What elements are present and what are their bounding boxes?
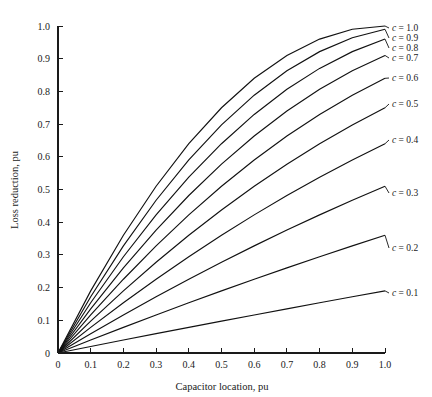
label-leader-line bbox=[385, 26, 389, 28]
y-tick-label: 0.6 bbox=[38, 151, 51, 162]
data-curve bbox=[58, 78, 385, 353]
y-tick-label: 0.5 bbox=[38, 184, 51, 195]
x-tick-label: 1.0 bbox=[379, 359, 392, 370]
curve-label: c = 0.3 bbox=[392, 188, 418, 198]
curve-labels-layer: c = 1.0c = 0.9c = 0.8c = 0.7c = 0.6c = 0… bbox=[392, 23, 418, 298]
axes-layer bbox=[58, 26, 385, 353]
label-leader-line bbox=[385, 29, 389, 38]
curve-label: c = 0.5 bbox=[392, 99, 418, 109]
y-tick-label: 0.3 bbox=[38, 249, 51, 260]
x-tick-label: 0.2 bbox=[117, 359, 130, 370]
y-tick-label: 0 bbox=[45, 348, 50, 359]
x-tick-label: 0.7 bbox=[281, 359, 294, 370]
y-tick-label: 0.8 bbox=[38, 86, 51, 97]
data-curve bbox=[58, 235, 385, 353]
curve-label: c = 0.2 bbox=[392, 243, 418, 253]
curves-layer bbox=[58, 26, 385, 353]
loss-reduction-chart: 00.10.20.30.40.50.60.70.80.91.0 00.10.20… bbox=[0, 0, 432, 397]
y-axis-title: Loss reduction, pu bbox=[9, 150, 20, 229]
x-axis-ticks: 00.10.20.30.40.50.60.70.80.91.0 bbox=[56, 348, 392, 370]
label-leader-line bbox=[385, 235, 389, 248]
y-tick-label: 0.2 bbox=[38, 282, 51, 293]
leader-lines-layer bbox=[385, 26, 389, 293]
data-curve bbox=[58, 186, 385, 353]
y-tick-label: 0.9 bbox=[38, 53, 51, 64]
label-leader-line bbox=[385, 186, 389, 193]
x-tick-label: 0.1 bbox=[84, 359, 97, 370]
label-leader-line bbox=[385, 104, 389, 108]
y-tick-label: 0.7 bbox=[38, 119, 51, 130]
y-tick-label: 0.1 bbox=[38, 315, 51, 326]
x-tick-label: 0.9 bbox=[346, 359, 359, 370]
curve-label: c = 0.4 bbox=[392, 135, 418, 145]
x-tick-label: 0.8 bbox=[313, 359, 326, 370]
chart-figure: 00.10.20.30.40.50.60.70.80.91.0 00.10.20… bbox=[0, 0, 432, 397]
curve-label: c = 0.7 bbox=[392, 53, 418, 63]
label-leader-line bbox=[385, 140, 389, 144]
label-leader-line bbox=[385, 39, 389, 48]
x-tick-label: 0.6 bbox=[248, 359, 261, 370]
data-curve bbox=[58, 291, 385, 353]
x-tick-label: 0.5 bbox=[215, 359, 228, 370]
curve-label: c = 1.0 bbox=[392, 23, 418, 33]
data-curve bbox=[58, 55, 385, 353]
y-tick-label: 0.4 bbox=[38, 217, 51, 228]
curve-label: c = 0.9 bbox=[392, 33, 418, 43]
curve-label: c = 0.8 bbox=[392, 43, 418, 53]
x-tick-label: 0.4 bbox=[183, 359, 196, 370]
x-tick-label: 0.3 bbox=[150, 359, 163, 370]
label-leader-line bbox=[385, 55, 389, 58]
y-tick-label: 1.0 bbox=[38, 21, 51, 32]
curve-label: c = 0.1 bbox=[392, 288, 418, 298]
x-tick-label: 0 bbox=[56, 359, 61, 370]
curve-label: c = 0.6 bbox=[392, 73, 418, 83]
data-curve bbox=[58, 26, 385, 353]
label-leader-line bbox=[385, 291, 389, 293]
y-axis-ticks: 00.10.20.30.40.50.60.70.80.91.0 bbox=[38, 21, 64, 359]
x-axis-title: Capacitor location, pu bbox=[175, 381, 269, 392]
data-curve bbox=[58, 29, 385, 353]
